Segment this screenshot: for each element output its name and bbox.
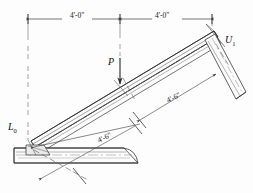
joint-label-l0-subscript: 0	[14, 127, 17, 134]
dimension-label-top-right: 4'-0"	[155, 11, 169, 20]
joint-label-l0: L0	[8, 121, 17, 134]
truss-detail-svg	[0, 0, 253, 193]
top-chord	[31, 31, 221, 154]
drawing-canvas: 4'-0" 4'-0" P L0 U1 4'-6" 4'-6"	[0, 0, 253, 193]
gusset-plate-l0	[26, 145, 50, 155]
joint-label-u1: U1	[225, 34, 235, 47]
load-label-p: P	[108, 56, 114, 67]
joint-label-u1-subscript: 1	[232, 40, 235, 47]
dimension-label-top-left: 4'-0"	[70, 11, 84, 20]
